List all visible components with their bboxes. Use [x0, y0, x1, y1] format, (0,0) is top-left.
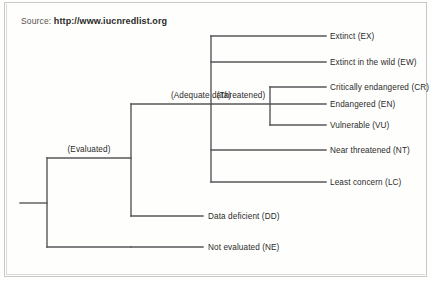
- leaf-label-extinct: Extinct (EX): [330, 32, 374, 41]
- leaf-label-not-evaluated: Not evaluated (NE): [208, 243, 279, 252]
- dendrogram-lines: [0, 0, 431, 281]
- leaf-label-data-deficient: Data deficient (DD): [208, 212, 280, 221]
- leaf-label-extinct-in-the-wild: Extinct in the wild (EW): [330, 58, 417, 67]
- leaf-label-vulnerable: Vulnerable (VU): [330, 121, 389, 130]
- leaf-label-least-concern: Least concern (LC): [330, 178, 401, 187]
- group-label-threatened: (Threatened): [217, 91, 266, 100]
- leaf-label-near-threatened: Near threatened (NT): [330, 146, 410, 155]
- group-label-evaluated: (Evaluated): [68, 145, 111, 154]
- diagram-page: Source: http://www.iucnredlist.org: [0, 0, 431, 281]
- leaf-label-endangered: Endangered (EN): [330, 100, 395, 109]
- leaf-label-critically-endangered: Critically endangered (CR): [330, 83, 429, 92]
